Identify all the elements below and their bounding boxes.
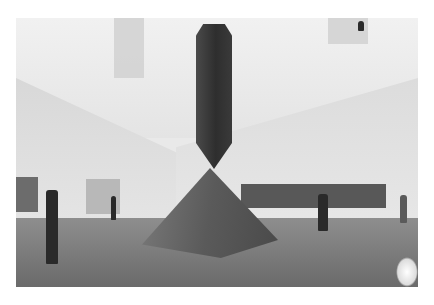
visitor-center-right — [318, 194, 328, 231]
skylight-left — [114, 18, 144, 78]
obelisk-sculpture — [196, 24, 232, 169]
visitor-painting — [111, 196, 116, 220]
visitor-balcony — [358, 21, 364, 31]
painting-left — [16, 177, 38, 212]
visitor-left — [46, 190, 58, 264]
museum-photograph — [16, 18, 418, 287]
panoramic-painting — [241, 184, 386, 208]
visitor-far-right — [400, 195, 407, 223]
light-flare — [396, 257, 418, 287]
